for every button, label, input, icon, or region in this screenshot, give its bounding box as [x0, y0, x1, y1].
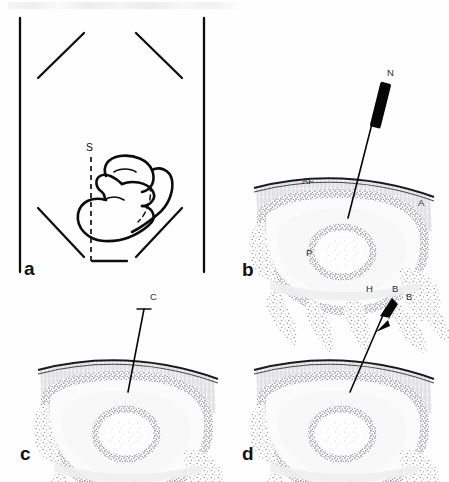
- figure-svg: S a N AF A P H B b C c: [0, 0, 449, 482]
- label-P: P: [306, 247, 312, 258]
- panel-a-frame-upper-right: [136, 33, 182, 78]
- panel-letter-d: d: [242, 443, 254, 464]
- panel-letter-a: a: [24, 258, 35, 279]
- label-H: H: [366, 283, 373, 294]
- panel-c: C c: [20, 291, 234, 482]
- fetus-outline-limb: [96, 175, 122, 200]
- label-B-body: B: [406, 291, 412, 302]
- panel-a-frame-upper-left: [38, 33, 84, 78]
- panel-d-anatomy: [249, 360, 449, 482]
- label-S: S: [86, 141, 93, 153]
- label-B-balloon: B: [392, 283, 398, 294]
- panel-letter-c: c: [20, 443, 31, 464]
- panel-c-anatomy: [33, 360, 235, 482]
- panel-b: N AF A P H B b: [242, 67, 449, 354]
- label-N: N: [387, 67, 394, 78]
- panel-a: S a: [20, 18, 204, 279]
- panel-letter-b: b: [242, 259, 254, 280]
- label-C: C: [150, 291, 157, 302]
- label-A: A: [418, 197, 425, 208]
- fetus-inner-line-1: [114, 169, 136, 172]
- label-AF: AF: [302, 175, 314, 186]
- fetus-outline-mid: [122, 182, 154, 206]
- figure-canvas: S a N AF A P H B b C c: [0, 0, 449, 482]
- needle-hub: [370, 81, 392, 128]
